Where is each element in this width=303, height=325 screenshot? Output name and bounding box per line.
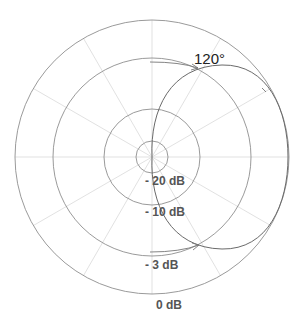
ring-label-3db: - 3 dB <box>145 258 179 272</box>
angle-label: 120° <box>194 50 225 67</box>
pattern-tick-icon <box>262 88 266 92</box>
ring-label-10db: - 10 dB <box>145 205 185 219</box>
arrow-top-icon <box>150 62 198 68</box>
arrow-bottom-icon <box>150 245 199 252</box>
ring-label-20db: - 20 dB <box>145 174 185 188</box>
polar-diagram: 120° - 20 dB - 10 dB - 3 dB 0 dB <box>0 0 303 325</box>
ring-label-0db: 0 dB <box>156 298 182 312</box>
